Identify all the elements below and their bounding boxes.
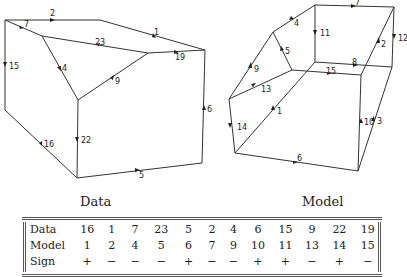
edge-label: 15 — [9, 62, 19, 71]
edge-label: 9 — [115, 77, 120, 86]
table-cell: 23 — [146, 221, 176, 237]
model-edge — [235, 62, 315, 153]
edge-label: 15 — [326, 67, 336, 76]
table-cell: 13 — [299, 237, 326, 253]
edge-label: 10 — [364, 118, 374, 127]
edge-label: 4 — [62, 64, 67, 73]
row-header: Sign — [30, 253, 75, 269]
arrow-marker — [248, 62, 252, 68]
table-cell: + — [176, 253, 200, 269]
table-row-sign: Sign + − − − + − − + + − + − — [30, 253, 382, 269]
edge-label: 11 — [320, 29, 330, 38]
table-cell: 4 — [223, 221, 244, 237]
table-row-data: Data 16 1 7 23 5 2 4 6 15 9 22 19 — [30, 221, 382, 237]
arrow-marker — [313, 30, 317, 35]
table-cell: + — [75, 253, 100, 269]
table-cell: 15 — [354, 237, 382, 253]
table-cell: 9 — [299, 221, 326, 237]
table-cell: 9 — [223, 237, 244, 253]
table-cell: − — [201, 253, 223, 269]
table-cell: − — [124, 253, 146, 269]
edge-label: 22 — [81, 136, 91, 145]
edge-label: 12 — [398, 34, 407, 43]
table-cell: 4 — [124, 237, 146, 253]
table-cell: 2 — [201, 221, 223, 237]
arrow-marker — [110, 75, 114, 80]
table-cell: 1 — [75, 237, 100, 253]
table-cell: 14 — [325, 237, 353, 253]
table-cell: − — [354, 253, 382, 269]
arrow-marker — [228, 123, 232, 128]
edge-label: 19 — [175, 53, 185, 62]
model-caption: Model — [302, 194, 343, 209]
arrow-marker — [50, 18, 55, 22]
edge-label: 23 — [95, 38, 105, 47]
correspondence-table: Data 16 1 7 23 5 2 4 6 15 9 22 19 Model … — [22, 217, 382, 277]
arrow-marker — [39, 141, 42, 146]
table-cell: 1 — [100, 221, 124, 237]
table-cell: 11 — [272, 237, 299, 253]
edge-label: 5 — [139, 171, 144, 180]
table-row-model: Model 1 2 4 5 6 7 9 10 11 13 14 15 — [30, 237, 382, 253]
table-cell: 16 — [75, 221, 100, 237]
table-cell: + — [325, 253, 353, 269]
table-cell: 2 — [100, 237, 124, 253]
edge-label: 2 — [381, 40, 386, 49]
figure-canvas: 2 7 23 1 19 15 4 9 6 16 22 5 — [0, 0, 407, 190]
edge-label: 5 — [285, 47, 290, 56]
table-cell: 7 — [201, 237, 223, 253]
table-cell: − — [100, 253, 124, 269]
edge-label: 13 — [261, 85, 271, 94]
table-cell: 5 — [146, 237, 176, 253]
edge-label: 9 — [254, 65, 259, 74]
arrow-marker — [3, 62, 7, 67]
data-graph: 2 7 23 1 19 15 4 9 6 16 22 5 — [3, 9, 212, 180]
table-cell: 15 — [272, 221, 299, 237]
edge-label: 14 — [237, 123, 247, 132]
model-graph: 7 4 11 12 2 5 9 15 8 13 1 14 10 3 6 — [228, 0, 407, 171]
edge-label: 1 — [154, 28, 159, 37]
table-cell: 19 — [354, 221, 382, 237]
edge-label: 2 — [50, 9, 55, 18]
arrow-marker — [57, 66, 61, 71]
table-cell: 7 — [124, 221, 146, 237]
row-header: Data — [30, 221, 75, 237]
edge-label: 1 — [277, 107, 282, 116]
table-cell: 6 — [176, 237, 200, 253]
edge-label: 7 — [24, 20, 29, 29]
table-cell: 10 — [244, 237, 272, 253]
edge-label: 6 — [297, 154, 302, 163]
table-cell: − — [223, 253, 244, 269]
data-caption: Data — [80, 194, 111, 209]
arrow-marker — [75, 137, 79, 142]
table-cell: + — [272, 253, 299, 269]
row-header: Model — [30, 237, 75, 253]
edge-label: 8 — [352, 58, 357, 67]
table-cell: 6 — [244, 221, 272, 237]
edge-label: 3 — [377, 117, 382, 126]
table-cell: − — [299, 253, 326, 269]
table-cell: 22 — [325, 221, 353, 237]
table-cell: − — [146, 253, 176, 269]
edge-label: 16 — [44, 140, 54, 149]
correspondence-grid: Data 16 1 7 23 5 2 4 6 15 9 22 19 Model … — [30, 221, 382, 269]
arrow-marker — [202, 105, 206, 110]
edge-label: 7 — [355, 0, 360, 7]
edge-label: 6 — [207, 105, 212, 114]
table-cell: + — [244, 253, 272, 269]
edge-label: 4 — [294, 19, 299, 28]
table-cell: 5 — [176, 221, 200, 237]
